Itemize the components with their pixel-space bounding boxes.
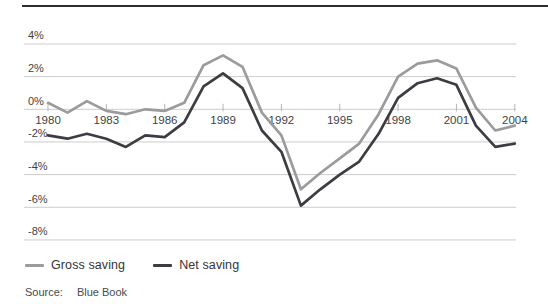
legend-label-gross-saving: Gross saving — [51, 258, 125, 272]
x-axis-label: 2001 — [444, 114, 470, 126]
legend-label-net-saving: Net saving — [179, 258, 239, 272]
y-axis-label: 0% — [28, 95, 44, 107]
source-label: Source: — [25, 286, 63, 298]
y-axis-label: -4% — [28, 160, 48, 172]
x-axis-label: 1980 — [35, 114, 61, 126]
x-axis-label: 1983 — [94, 114, 120, 126]
y-axis-label: -8% — [28, 225, 48, 237]
net-saving-line — [48, 73, 515, 205]
y-axis-label: -6% — [28, 193, 48, 205]
y-axis-label: -2% — [28, 127, 48, 139]
x-axis-label: 1986 — [152, 114, 178, 126]
chart-canvas: 4%2%0%-2%-4%-6%-8%1980198319861989199219… — [0, 0, 548, 256]
net-saving-line-swatch — [153, 264, 172, 267]
legend-item-gross-saving: Gross saving — [25, 258, 125, 272]
y-axis-label: 2% — [28, 62, 44, 74]
x-axis-label: 2004 — [502, 114, 528, 126]
x-axis-label: 1995 — [327, 114, 353, 126]
y-axis-label: 4% — [28, 29, 44, 41]
chart-legend: Gross saving Net saving — [25, 258, 239, 272]
legend-item-net-saving: Net saving — [153, 258, 239, 272]
chart-page: 4%2%0%-2%-4%-6%-8%1980198319861989199219… — [0, 0, 548, 304]
x-axis-label: 1989 — [210, 114, 236, 126]
gross-saving-line-swatch — [25, 264, 44, 267]
source-row: Source:Blue Book — [25, 286, 127, 298]
source-text: Blue Book — [77, 286, 127, 298]
